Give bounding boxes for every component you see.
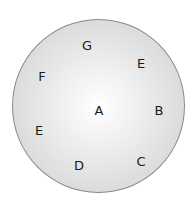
label-g: G xyxy=(82,39,92,52)
label-e-left: E xyxy=(35,124,43,137)
label-e-upper-right: E xyxy=(137,57,145,70)
label-c: C xyxy=(136,155,145,168)
label-f: F xyxy=(38,70,45,83)
label-a-center: A xyxy=(95,104,104,117)
label-d: D xyxy=(74,159,84,172)
label-b: B xyxy=(155,104,164,117)
